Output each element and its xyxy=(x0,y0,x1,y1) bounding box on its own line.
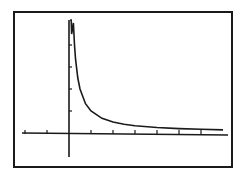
calculator-graph-screen xyxy=(0,0,243,176)
viewing-window-frame xyxy=(14,12,232,167)
function-plot xyxy=(0,0,243,176)
